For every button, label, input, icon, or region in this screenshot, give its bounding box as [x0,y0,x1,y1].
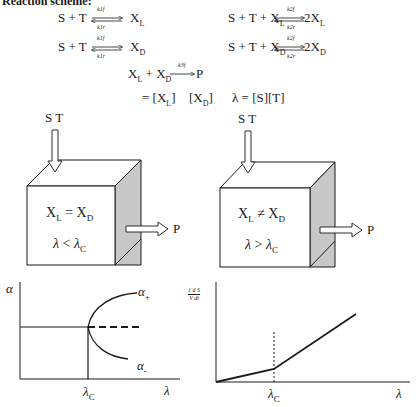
bifurcation-chart [20,282,180,379]
box-1-inputs: S T [45,110,63,126]
reactor-box-2 [220,131,362,267]
diagram-artwork [0,0,419,407]
box-1-output: P [173,221,180,237]
reactor-box-1 [27,130,168,265]
right-chart-lambda-c: λC [268,386,280,404]
left-chart-lambda-c: λC [83,384,95,402]
box-2-condition: λ > λC [245,237,278,255]
alpha-plus-label: α+ [138,284,150,302]
entropy-chart [216,282,410,382]
box-2-state: XL ≠ XD [238,206,285,224]
alpha-minus-label: α- [137,358,147,376]
box-2-output: P [367,222,374,238]
box-1-condition: λ < λC [53,236,86,254]
right-chart-x-label: λ [396,386,402,402]
left-chart-x-label: λ [164,383,170,399]
right-chart-y-label: 1 d S V dt [188,287,200,302]
box-2-inputs: S T [238,111,256,127]
left-chart-y-label: α [6,281,13,297]
box-1-state: XL = XD [46,205,93,223]
